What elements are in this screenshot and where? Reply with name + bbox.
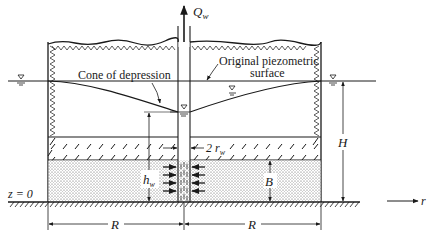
radius-dimensions [48, 203, 321, 230]
water-level-symbol-well [180, 105, 188, 116]
water-level-symbol-left [17, 75, 25, 85]
water-level-symbol-cone [229, 86, 236, 95]
discharge-label: Qw [193, 4, 208, 21]
confining-layer [48, 137, 321, 162]
radius-right-label: R [247, 217, 256, 232]
water-level-symbol-right [329, 75, 337, 85]
head-label: H [337, 135, 348, 150]
datum-label: z = 0 [7, 187, 33, 201]
discharge-arrow: Qw [184, 4, 208, 42]
head-dimension: H [336, 82, 350, 201]
confined-aquifer [49, 161, 321, 202]
original-surface-label-line2: surface [250, 66, 285, 80]
aquifer-diagram: Qw Cone of depression Original piezometr… [0, 0, 429, 235]
thickness-label: B [265, 174, 273, 189]
radius-left-label: R [110, 217, 119, 232]
cone-of-depression [48, 81, 321, 112]
cone-of-depression-label: Cone of depression [78, 68, 171, 82]
radial-axis-label: r [421, 194, 426, 208]
